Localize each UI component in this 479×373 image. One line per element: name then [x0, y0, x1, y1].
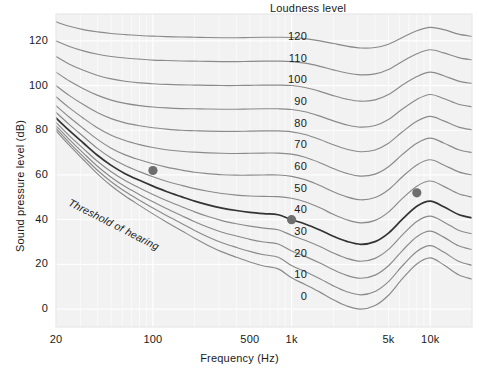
y-axis-title: Sound pressure level (dB) [14, 120, 26, 252]
y-tick-0: 0 [0, 302, 48, 314]
contour-label-40: 40 [267, 203, 307, 215]
x-tick-1k: 1k [267, 333, 317, 345]
marker-1khz [287, 215, 296, 224]
contour-label-60: 60 [267, 160, 307, 172]
contour-label-90: 90 [267, 95, 307, 107]
plot-canvas [0, 0, 479, 373]
contour-label-20: 20 [267, 247, 307, 259]
contour-label-110: 110 [267, 52, 307, 64]
contour-label-10: 10 [267, 268, 307, 280]
marker-8khz [412, 188, 421, 197]
contour-label-0: 0 [267, 290, 307, 302]
contour-label-80: 80 [267, 117, 307, 129]
contour-label-100: 100 [267, 73, 307, 85]
x-tick-100: 100 [128, 333, 178, 345]
contour-label-70: 70 [267, 138, 307, 150]
y-tick-80: 80 [0, 123, 48, 135]
contour-label-50: 50 [267, 182, 307, 194]
contour-label-30: 30 [267, 225, 307, 237]
x-tick-20: 20 [31, 333, 81, 345]
y-tick-100: 100 [0, 79, 48, 91]
contour-label-120: 120 [267, 30, 307, 42]
marker-100hz [148, 166, 157, 175]
y-tick-40: 40 [0, 213, 48, 225]
equal-loudness-chart: Loudness level Threshold of hearing Soun… [0, 0, 479, 373]
x-tick-10k: 10k [405, 333, 455, 345]
x-axis-title: Frequency (Hz) [0, 352, 479, 364]
loudness-level-title: Loudness level [248, 2, 368, 14]
y-tick-120: 120 [0, 34, 48, 46]
y-tick-20: 20 [0, 257, 48, 269]
y-tick-60: 60 [0, 168, 48, 180]
